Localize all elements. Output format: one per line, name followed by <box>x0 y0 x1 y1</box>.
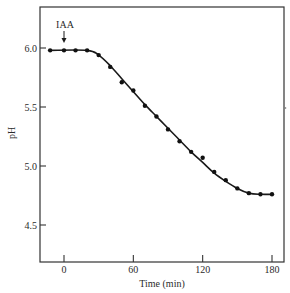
data-point <box>108 65 112 69</box>
data-point <box>166 127 170 131</box>
data-point <box>73 48 77 52</box>
x-axis-ticks: 060120180 <box>62 255 280 275</box>
x-tick-label: 120 <box>195 264 210 275</box>
data-point <box>120 80 124 84</box>
data-point <box>247 191 251 195</box>
data-point <box>200 156 204 160</box>
data-point <box>258 192 262 196</box>
y-axis-label: pH <box>6 127 17 139</box>
data-point <box>212 170 216 174</box>
y-axis-ticks: 4.55.05.56.0 <box>25 43 47 231</box>
speck-artifact <box>285 107 287 109</box>
arrowhead-icon <box>62 38 67 43</box>
data-point <box>85 48 89 52</box>
data-point <box>224 178 228 182</box>
data-point <box>96 53 100 57</box>
x-tick-label: 0 <box>62 264 67 275</box>
data-point <box>177 139 181 143</box>
y-tick-label: 4.5 <box>25 220 38 231</box>
x-axis-label: Time (min) <box>139 278 184 290</box>
data-point <box>235 186 239 190</box>
data-point <box>270 192 274 196</box>
x-tick-label: 60 <box>128 264 138 275</box>
data-point <box>143 104 147 108</box>
iaa-annotation: IAA <box>56 19 75 43</box>
data-point <box>62 48 66 52</box>
data-point <box>154 114 158 118</box>
plot-frame <box>40 7 284 262</box>
trend-line <box>50 50 272 194</box>
x-tick-label: 180 <box>265 264 280 275</box>
data-points <box>48 48 274 196</box>
iaa-label: IAA <box>56 19 75 30</box>
data-point <box>189 150 193 154</box>
y-tick-label: 6.0 <box>25 43 38 54</box>
y-tick-label: 5.0 <box>25 161 38 172</box>
y-tick-label: 5.5 <box>25 102 38 113</box>
data-point <box>48 48 52 52</box>
data-point <box>131 88 135 92</box>
ph-time-chart: 4.55.05.56.0 060120180 IAA Time (min) pH <box>0 0 290 293</box>
